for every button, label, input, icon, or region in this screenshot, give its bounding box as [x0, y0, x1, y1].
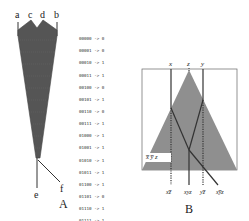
truth-table-row: 00000 -> 0	[79, 37, 104, 41]
label-c: c	[28, 10, 32, 20]
truth-table-row: 01110 -> 1	[79, 207, 104, 211]
label-z: z	[187, 61, 190, 68]
label-f: f	[60, 184, 63, 194]
truth-table-row: 01100 -> 1	[79, 183, 104, 187]
truth-table-row: 00110 -> 0	[79, 110, 104, 114]
label-a: a	[15, 10, 19, 20]
truth-table-row: 01010 -> 1	[79, 159, 104, 163]
diagram-canvas	[0, 0, 249, 221]
panel-b-diagram	[142, 68, 237, 185]
label-x-ybar-z: xy̅z	[216, 189, 224, 195]
truth-table-row: 00101 -> 1	[79, 98, 104, 102]
label-xbar-ybar-z: x̅ y̅ z	[146, 154, 158, 161]
label-x-zbar: xz̅	[166, 189, 171, 195]
truth-table-row: 01001 -> 1	[79, 146, 104, 150]
caption-b: B	[185, 203, 193, 215]
label-xyz: xyz	[184, 189, 192, 195]
caption-a: A	[59, 198, 68, 210]
truth-table-row: 01111 -> 1	[79, 219, 104, 221]
panel-a-funnel	[18, 20, 60, 188]
truth-table-row: 01000 -> 1	[79, 134, 104, 138]
truth-table-row: 01101 -> 0	[79, 195, 104, 199]
label-d: d	[40, 10, 45, 20]
label-b: b	[54, 10, 59, 20]
truth-table-row: 00011 -> 1	[79, 74, 104, 78]
label-y-zbar: yz̅	[200, 189, 205, 195]
truth-table-row: 01011 -> 1	[79, 171, 104, 175]
truth-table-row: 00001 -> 0	[79, 49, 104, 53]
truth-table-row: 00111 -> 1	[79, 122, 104, 126]
truth-table: 00000 -> 0 00001 -> 0 00010 -> 1 00011 -…	[79, 29, 104, 221]
truth-table-row: 00010 -> 1	[79, 61, 104, 65]
label-e: e	[34, 190, 38, 200]
label-x: x	[169, 61, 172, 68]
truth-table-row: 00100 -> 0	[79, 86, 104, 90]
label-y: y	[201, 61, 204, 68]
